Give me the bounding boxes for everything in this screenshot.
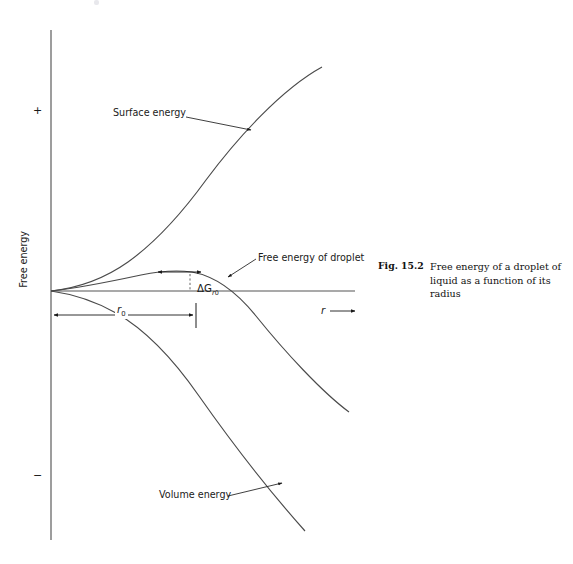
label-volume-energy: Volume energy xyxy=(159,490,231,501)
y-axis-title: Free energy xyxy=(19,217,30,301)
label-activation-barrier: ΔGr0 xyxy=(197,283,219,297)
leader-free-energy-droplet xyxy=(228,259,256,277)
label-critical-radius: r0 xyxy=(115,304,128,319)
y-axis-negative-sign: − xyxy=(33,470,42,482)
label-free-energy-droplet: Free energy of droplet xyxy=(258,253,364,264)
barrier-symbol: ΔG xyxy=(197,283,212,294)
x-axis-variable-label: r xyxy=(321,305,325,316)
critical-radius-subscript: 0 xyxy=(121,310,125,318)
y-axis-positive-sign: + xyxy=(33,105,42,117)
caption-figure-number: Fig. 15.2 xyxy=(378,260,424,271)
figure-container: Surface energy Free energy of droplet Vo… xyxy=(0,0,573,564)
label-surface-energy: Surface energy xyxy=(113,108,186,119)
barrier-subscript-zero: 0 xyxy=(215,289,219,297)
leader-surface-energy xyxy=(186,117,251,130)
caption-text: Free energy of a droplet of liquid as a … xyxy=(430,260,568,301)
